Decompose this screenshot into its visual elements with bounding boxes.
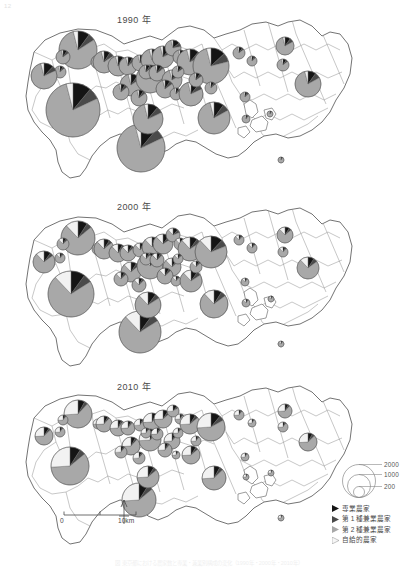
pie-marker — [51, 447, 89, 485]
pie-marker — [61, 221, 95, 255]
pie-marker — [58, 415, 68, 425]
pie-marker — [248, 419, 256, 427]
pie-marker — [135, 292, 161, 318]
pie-marker — [115, 446, 127, 458]
pie-marker — [242, 299, 250, 307]
map-panel-1990: 1990 年 — [0, 0, 417, 190]
pie-marker — [278, 157, 284, 163]
pie-marker — [171, 276, 181, 286]
pie-marker — [131, 90, 147, 106]
pie-marker — [141, 428, 151, 438]
pie-marker — [189, 73, 203, 87]
pie-marker — [241, 453, 249, 461]
pie-marker — [121, 421, 135, 435]
legend-item-kengyo1: 第 1 種兼業農家 — [332, 514, 417, 524]
pie-marker — [242, 115, 250, 123]
pie-marker — [150, 253, 164, 267]
pie-marker — [48, 271, 94, 317]
pie-marker — [205, 82, 217, 94]
scale-label-zero: 0 — [60, 517, 64, 524]
pie-marker — [190, 261, 202, 273]
pie-marker — [191, 436, 201, 446]
legend-size-label-1000: 1000 — [384, 471, 399, 478]
legend-label-jikyu: 自給的農家 — [342, 535, 377, 545]
legend-circle-1000 — [348, 475, 371, 498]
pie-marker — [240, 92, 250, 102]
pie-marker — [277, 59, 289, 71]
pie-marker — [202, 466, 226, 490]
legend-circle-200 — [354, 487, 365, 498]
pie-marker — [46, 83, 100, 137]
pie-marker — [132, 278, 146, 292]
scale-bar: 0 10km — [60, 508, 156, 532]
pie-marker — [278, 515, 284, 521]
proportional-circle-legend: 2000 1000 200 — [338, 448, 417, 500]
pie-marker — [119, 311, 161, 353]
pie-marker — [55, 253, 65, 263]
pie-marker — [297, 257, 319, 279]
pie-marker — [278, 341, 284, 347]
pie-marker — [133, 104, 163, 134]
pie-marker — [278, 404, 292, 418]
pie-marker — [114, 272, 128, 286]
pie-marker — [278, 422, 288, 432]
wedge-swatch-icon — [332, 505, 339, 512]
map-panel-2000: 2000 年 — [0, 188, 417, 378]
pie-marker — [151, 428, 163, 440]
pie-marker — [267, 111, 273, 117]
pie-marker — [180, 414, 200, 434]
pie-marker — [247, 56, 257, 66]
legend-item-kengyo2: 第 2 種兼業農家 — [332, 525, 417, 535]
pie-marker — [276, 37, 294, 55]
legend-item-jikyu: 自給的農家 — [332, 535, 417, 545]
pie-marker — [133, 452, 145, 464]
pie-marker — [31, 63, 57, 89]
figure-caption: 図 東京都における農家数と専業・兼業別構成の変化（1990年・2000年・201… — [44, 560, 374, 567]
pie-marker — [64, 400, 92, 428]
pie-marker — [241, 278, 249, 286]
pie-marker — [56, 50, 70, 64]
pie-marker — [137, 466, 159, 488]
pie-marker — [200, 290, 228, 318]
pie-marker — [198, 102, 230, 134]
pie-marker — [299, 433, 317, 451]
pie-marker — [57, 238, 69, 250]
pie-marker — [173, 428, 183, 438]
legend-label-kengyo2: 第 2 種兼業農家 — [342, 525, 391, 535]
pie-marker — [268, 470, 274, 476]
pie-marker — [182, 446, 200, 464]
pie-marker — [268, 296, 274, 302]
wedge-swatch-icon — [332, 526, 339, 533]
pie-marker — [234, 235, 244, 245]
pie-marker — [157, 268, 173, 284]
map-svg-1990 — [0, 0, 417, 190]
pie-marker — [173, 254, 183, 264]
figure-root: 12 1990 年 2000 年 2010 年 2000 1000 200 — [0, 0, 417, 572]
pie-marker — [172, 66, 184, 78]
legend-label-kengyo1: 第 1 種兼業農家 — [342, 514, 391, 524]
pie-marker — [277, 227, 293, 243]
pie-marker — [55, 427, 65, 437]
farm-household-category-legend: 専業農家 第 1 種兼業農家 第 2 種兼業農家 自給的農家 — [332, 504, 417, 550]
legend-circles-svg — [338, 448, 417, 500]
pie-marker — [278, 247, 288, 257]
wedge-swatch-icon — [332, 537, 339, 544]
pie-marker — [180, 270, 202, 292]
legend-item-sengyo: 専業農家 — [332, 504, 417, 514]
pie-marker — [96, 416, 112, 432]
legend-size-label-2000: 2000 — [384, 461, 399, 468]
map-svg-2000 — [0, 188, 417, 378]
pie-marker — [234, 410, 244, 420]
pie-marker — [233, 47, 245, 59]
pie-marker — [35, 427, 53, 445]
pie-marker — [243, 474, 249, 480]
wedge-swatch-icon — [332, 516, 339, 523]
legend-size-label-200: 200 — [384, 483, 395, 490]
pie-marker — [33, 251, 55, 273]
north-arrow — [116, 498, 132, 528]
pie-marker — [197, 413, 225, 441]
legend-label-sengyo: 専業農家 — [342, 504, 370, 514]
pie-marker — [172, 451, 180, 459]
pie-marker — [247, 243, 257, 253]
north-arrow-icon — [116, 498, 132, 528]
